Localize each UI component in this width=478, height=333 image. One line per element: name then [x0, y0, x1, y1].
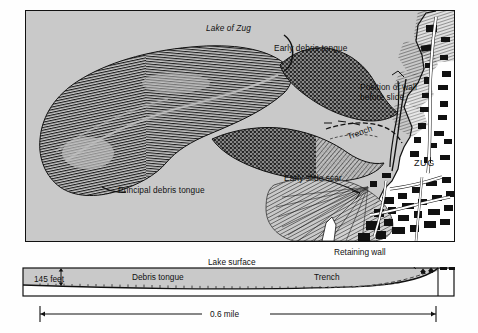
- label-scale-length: 0.6 mile: [210, 309, 239, 319]
- map-artwork: [26, 11, 454, 241]
- figure-root: Lake of Zug Early debris tongue Position…: [0, 0, 478, 333]
- label-early-slide-scar: Early slide scar: [284, 174, 342, 184]
- label-early-debris-tongue: Early debris tongue: [274, 44, 347, 54]
- scale-bar: 0.6 mile: [22, 302, 455, 328]
- cross-section-artwork: [22, 267, 455, 297]
- label-lake-surface: Lake surface: [208, 258, 256, 268]
- label-debris-tongue-section: Debris tongue: [132, 273, 184, 283]
- plan-view-map: Lake of Zug Early debris tongue Position…: [25, 10, 455, 242]
- label-retaining-wall: Retaining wall: [334, 248, 386, 258]
- cross-section: 145 feet Lake surface Debris tongue Tren…: [22, 267, 455, 297]
- label-position-of-wall-2: before slide: [360, 93, 404, 103]
- label-zug-town: ZUG: [414, 159, 435, 169]
- label-trench-section: Trench: [314, 273, 340, 283]
- label-depth-145-feet: 145 feet: [34, 275, 64, 285]
- label-lake-of-zug: Lake of Zug: [206, 24, 251, 34]
- label-principal-debris-tongue: Principal debris tongue: [118, 186, 205, 196]
